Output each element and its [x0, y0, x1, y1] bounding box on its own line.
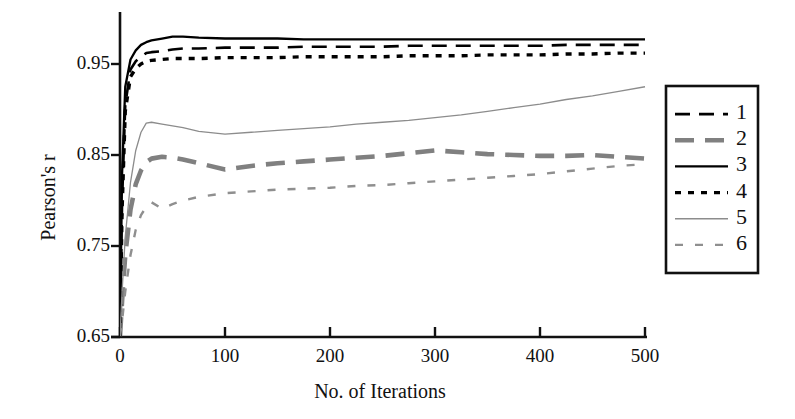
series-line-2: [120, 150, 645, 336]
legend-label-2: 2: [736, 125, 747, 151]
x-axis-title: No. of Iterations: [230, 380, 530, 403]
x-tick-label: 400: [505, 345, 575, 367]
legend-label-3: 3: [736, 151, 747, 177]
series-line-4: [120, 53, 645, 336]
chart-figure: Pearson's r No. of Iterations 0.650.750.…: [0, 0, 795, 419]
x-tick-label: 0: [85, 345, 155, 367]
y-axis-title: Pearson's r: [37, 108, 60, 288]
x-tick-label: 500: [610, 345, 680, 367]
x-tick-label: 300: [400, 345, 470, 367]
x-tick-label: 100: [190, 345, 260, 367]
series-line-1: [120, 45, 645, 336]
legend-label-4: 4: [736, 178, 747, 204]
y-tick-label: 0.85: [40, 143, 110, 165]
x-tick-label: 200: [295, 345, 365, 367]
series-line-5: [120, 87, 645, 336]
chart-series-group: [120, 37, 645, 336]
series-line-3: [120, 37, 645, 336]
legend-label-5: 5: [736, 204, 747, 230]
y-tick-label: 0.75: [40, 234, 110, 256]
y-tick-label: 0.65: [40, 325, 110, 347]
legend-label-1: 1: [736, 99, 747, 125]
chart-axes: [111, 12, 647, 337]
y-tick-label: 0.95: [40, 52, 110, 74]
legend-label-6: 6: [736, 230, 747, 256]
series-line-6: [120, 164, 645, 336]
